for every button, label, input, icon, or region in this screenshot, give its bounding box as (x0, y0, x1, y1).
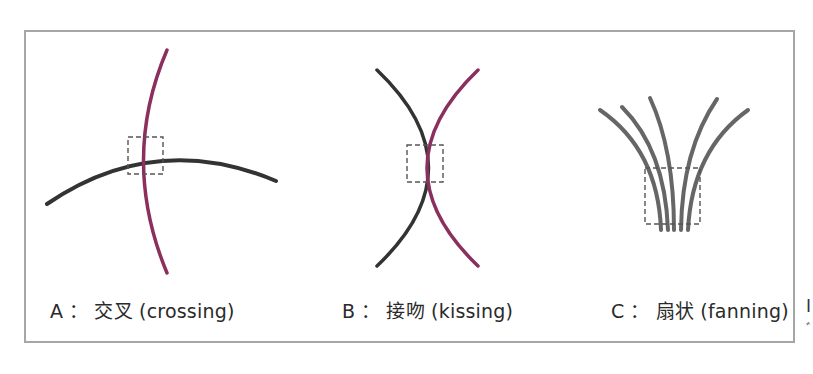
kissing-curve-dark (377, 70, 429, 266)
panel-c-fanning (600, 98, 748, 230)
panel-a-letter: A (50, 300, 63, 322)
panel-b-label: B：接吻 (kissing) (342, 296, 513, 323)
panel-b-kissing (377, 70, 478, 266)
panel-a-separator: ： (69, 300, 88, 322)
clipped-text-line-2: ﾞ (806, 318, 813, 338)
fanning-curve-3 (650, 98, 674, 230)
kissing-highlight-box (407, 145, 443, 182)
clipped-text-line-1: I (806, 296, 811, 316)
panel-a-crossing (47, 50, 276, 273)
panel-c-label: C：扇状 (fanning) (611, 296, 789, 323)
panel-b-name-zh: 接吻 (386, 300, 424, 322)
panel-c-letter: C (611, 300, 624, 322)
fanning-curve-4 (681, 99, 717, 230)
panel-a-name-en: (crossing) (139, 300, 234, 322)
panel-c-name-zh: 扇状 (656, 300, 694, 322)
fanning-curve-5 (688, 110, 748, 230)
fanning-curve-1 (600, 110, 661, 230)
panel-a-label: A：交叉 (crossing) (50, 296, 235, 323)
panel-b-letter: B (342, 300, 355, 322)
kissing-curve-magenta (427, 70, 478, 266)
panel-c-name-en: (fanning) (700, 300, 788, 322)
panel-b-name-en: (kissing) (431, 300, 513, 322)
panel-a-name-zh: 交叉 (94, 300, 132, 322)
crossing-curve-dark (47, 160, 276, 204)
panel-c-separator: ： (630, 300, 649, 322)
panel-b-separator: ： (361, 300, 380, 322)
